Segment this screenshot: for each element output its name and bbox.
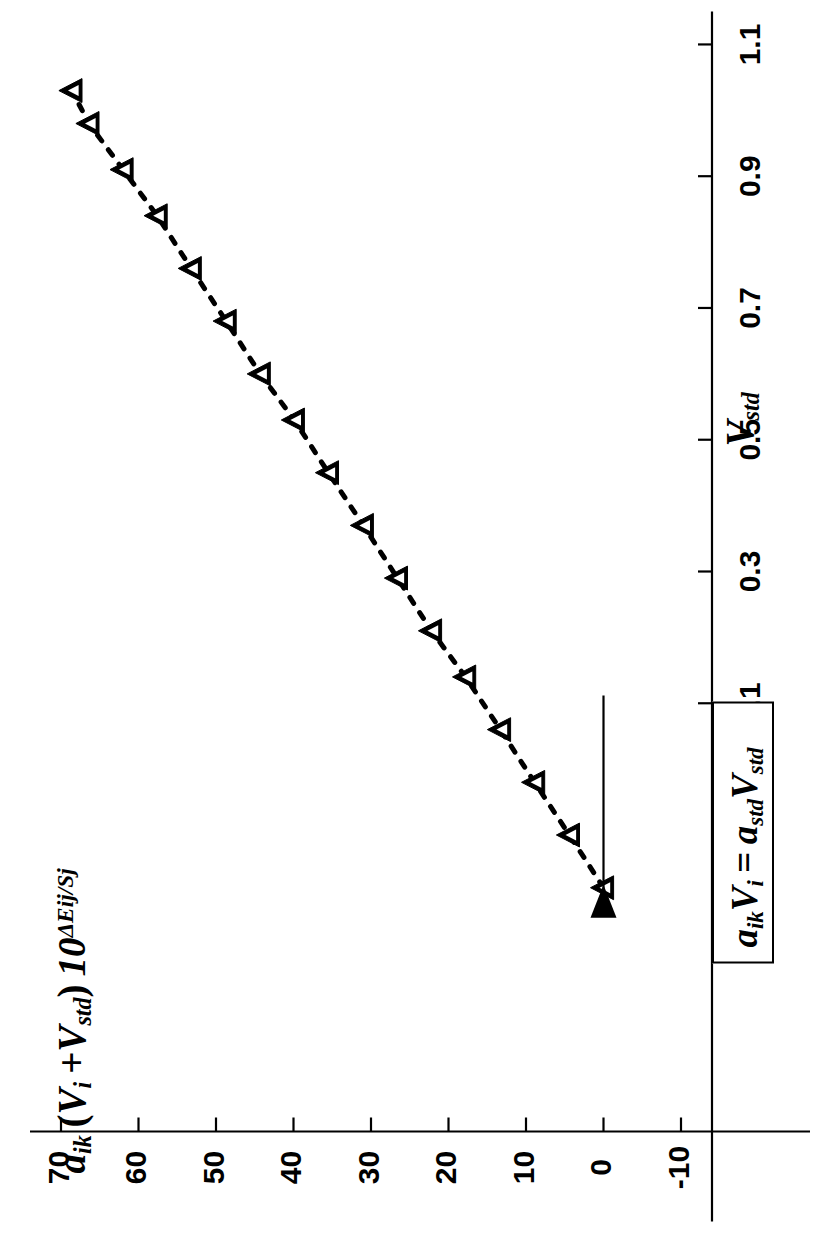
y-title-ten: 10 <box>50 937 93 976</box>
x-tick-label: 1.1 <box>733 23 766 65</box>
y-tick-label: 60 <box>119 1150 152 1183</box>
data-series-line <box>72 90 604 887</box>
ann-a1-sub: ik <box>743 911 768 929</box>
x-title-sub: std <box>737 392 764 420</box>
x-tick-label: 0.7 <box>733 287 766 329</box>
y-title-V2: V <box>50 1025 93 1051</box>
ann-V1-sub: i <box>743 880 768 886</box>
x-tick-label-group: 0.10.30.50.70.91.1 <box>733 23 766 724</box>
plot-area: -10010203040506070 0.10.30.50.70.91.1 ai… <box>0 0 838 1251</box>
annotation-box: aikVi = astdVstd <box>712 701 774 963</box>
y-title-a: a <box>50 1154 93 1174</box>
chart-svg: -10010203040506070 0.10.30.50.70.91.1 <box>0 0 838 1251</box>
x-tick-group <box>698 44 712 703</box>
figure-canvas: -10010203040506070 0.10.30.50.70.91.1 ai… <box>0 0 838 1251</box>
y-tick-label: 10 <box>507 1150 540 1183</box>
y-tick-label: 20 <box>429 1150 462 1183</box>
y-title-V2-sub: std <box>69 997 96 1025</box>
y-tick-label: 0 <box>584 1159 617 1176</box>
x-tick-label: 0.9 <box>733 155 766 197</box>
y-title-a-sub: ik <box>69 1135 96 1154</box>
annotation-box-text: aikVi = astdVstd <box>714 703 768 961</box>
y-axis-title: aik (Vi +Vstd) 10ΔEij/Sj <box>52 868 95 1173</box>
x-axis-title: Vstd <box>720 392 763 446</box>
ann-V2-sub: std <box>743 747 768 774</box>
y-tick-label: -10 <box>662 1145 695 1188</box>
ann-a1: a <box>724 929 765 948</box>
y-tick-group <box>61 1117 681 1131</box>
y-tick-label: 40 <box>274 1150 307 1183</box>
ann-V2: V <box>724 774 765 799</box>
x-title-V: V <box>718 420 761 446</box>
y-tick-label: 50 <box>197 1150 230 1183</box>
y-title-exp: ΔEij/Sj <box>52 868 78 937</box>
y-tick-label: 30 <box>352 1150 385 1183</box>
ann-a2-sub: std <box>743 798 768 825</box>
y-title-V1-sub: i <box>69 1081 96 1088</box>
ann-V1: V <box>724 886 765 911</box>
rotated-figure-group: -10010203040506070 0.10.30.50.70.91.1 ai… <box>0 0 838 1251</box>
ann-a2: a <box>724 825 765 844</box>
y-tick-label-group: -10010203040506070 <box>42 1145 695 1188</box>
x-tick-label: 0.3 <box>733 550 766 592</box>
y-title-V1: V <box>50 1088 93 1114</box>
